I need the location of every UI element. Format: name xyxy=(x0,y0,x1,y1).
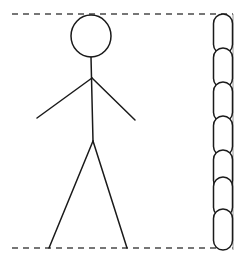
stick-figure-measurement-diagram xyxy=(0,0,244,263)
vertical-chain-of-links xyxy=(214,14,233,250)
canvas-background xyxy=(0,0,244,263)
diagram-canvas xyxy=(0,0,244,263)
chain-link-7 xyxy=(214,209,233,250)
